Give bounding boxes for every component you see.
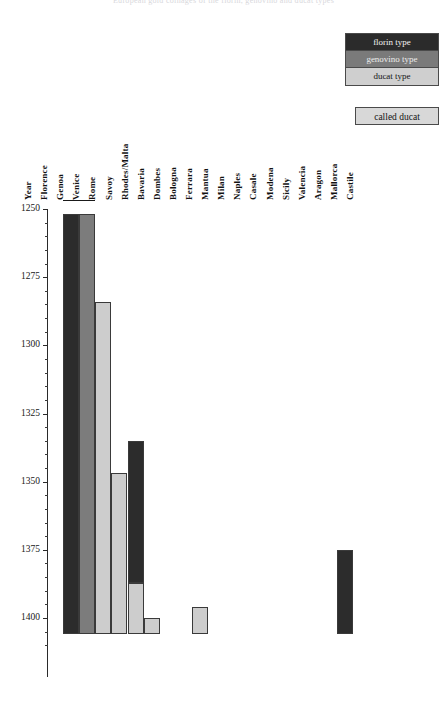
y-axis-tick-major <box>43 277 48 278</box>
y-axis-tick-label: 1400 <box>12 612 40 622</box>
y-axis-tick-major <box>43 550 48 551</box>
y-axis-tick-minor <box>45 645 48 646</box>
y-axis-tick-minor <box>45 454 48 455</box>
gold-coinage-timeline-chart: European gold coinages of the florin, ge… <box>0 0 447 711</box>
bar-aragon-florin <box>337 550 353 635</box>
x-axis-label: Genoa <box>55 174 65 200</box>
y-axis-tick-label: 1275 <box>12 271 40 281</box>
bar-savoy-ducat <box>128 583 144 635</box>
y-axis-tick-label: 1350 <box>12 476 40 486</box>
y-axis-tick-major <box>43 414 48 415</box>
y-axis-tick-minor <box>45 332 48 333</box>
y-axis-tick-minor <box>45 468 48 469</box>
y-axis-line <box>47 209 48 677</box>
x-axis-label: Rhodes/Malta <box>120 144 130 200</box>
y-axis-tick-minor <box>45 223 48 224</box>
x-axis-label: Mallorca <box>329 164 339 200</box>
x-axis-label: Dombes <box>152 168 162 200</box>
x-axis-label: Sicily <box>281 178 291 200</box>
x-axis-baseline <box>47 677 49 678</box>
y-axis-tick-major <box>43 618 48 619</box>
bar-rome-ducat <box>111 473 127 634</box>
bar-bologna-ducat <box>192 607 208 634</box>
y-axis-tick-minor <box>45 304 48 305</box>
x-axis-label: Rome <box>87 177 97 200</box>
y-axis-tick-minor <box>45 373 48 374</box>
y-axis-tick-minor <box>45 577 48 578</box>
y-axis-tick-minor <box>45 441 48 442</box>
y-axis-tick-minor <box>45 386 48 387</box>
y-axis-tick-minor <box>45 509 48 510</box>
y-axis-tick-major <box>43 345 48 346</box>
x-axis-label: Naples <box>232 173 242 200</box>
x-axis-label: Florence <box>39 165 49 200</box>
y-axis-tick-minor <box>45 264 48 265</box>
bar-rhodes-malta-ducat <box>144 618 160 634</box>
y-axis-tick-label: 1250 <box>12 203 40 213</box>
x-axis-label: Modena <box>265 167 275 200</box>
y-axis-tick-minor <box>45 400 48 401</box>
x-axis-label: Castile <box>345 172 355 200</box>
x-axis-category-castile: Castile <box>355 140 371 200</box>
y-axis-tick-major <box>43 482 48 483</box>
bar-genoa-genovino <box>79 214 95 634</box>
bar-florence-florin <box>63 214 79 634</box>
y-axis-tick-minor <box>45 536 48 537</box>
x-axis-label: Year <box>23 181 33 200</box>
y-axis-tick-minor <box>45 604 48 605</box>
bar-savoy-florin <box>128 441 144 583</box>
x-axis-label: Valencia <box>297 166 307 200</box>
y-axis-tick-minor <box>45 523 48 524</box>
x-axis-label: Milan <box>216 176 226 200</box>
y-axis-tick-minor <box>45 318 48 319</box>
y-axis-tick-minor <box>45 236 48 237</box>
y-axis-tick-minor <box>45 427 48 428</box>
y-axis-tick-minor <box>45 495 48 496</box>
x-axis-label: Ferrara <box>184 168 194 200</box>
y-axis-tick-minor <box>45 632 48 633</box>
x-axis-label: Mantua <box>200 168 210 200</box>
x-axis-label: Aragon <box>313 170 323 200</box>
y-axis-tick-minor <box>45 250 48 251</box>
y-axis-tick-label: 1300 <box>12 339 40 349</box>
x-axis-label: Casale <box>248 173 258 200</box>
y-axis-tick-major <box>43 209 48 210</box>
y-axis-tick-minor <box>45 359 48 360</box>
y-axis-tick-label: 1375 <box>12 544 40 554</box>
y-axis-tick-minor <box>45 591 48 592</box>
x-axis-label: Bavaria <box>136 168 146 200</box>
florence-genoa-label-underline <box>63 200 95 201</box>
x-axis-label: Bologna <box>168 167 178 200</box>
x-axis-label: Venice <box>71 174 81 200</box>
y-axis-tick-label: 1325 <box>12 408 40 418</box>
x-axis-label: Savoy <box>104 176 114 200</box>
y-axis-tick-minor <box>45 291 48 292</box>
bar-venice-ducat <box>95 302 111 635</box>
y-axis-tick-minor <box>45 563 48 564</box>
plot-area: YearFlorenceGenoaVeniceRomeSavoyRhodes/M… <box>0 0 447 711</box>
